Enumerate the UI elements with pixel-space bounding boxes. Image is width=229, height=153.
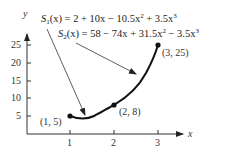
point-label-2-8: (2, 8) (119, 106, 141, 118)
point-1-5 (67, 113, 72, 118)
y-axis-label: y (22, 8, 28, 19)
point-label-1-5: (1, 5) (40, 116, 62, 128)
y-tick-15: 15 (11, 75, 21, 86)
s1-pointer-arrow (47, 29, 85, 115)
point-label-3-25: (3, 25) (162, 47, 189, 59)
spline-s1-curve (70, 105, 114, 119)
s1-exp3: 3 (173, 12, 177, 20)
x-tick-2: 2 (111, 137, 116, 148)
s2-terms-2: − 3.5x (166, 28, 196, 39)
s1-terms-2: + 3.5x (144, 13, 174, 24)
x-tick-1: 1 (67, 137, 72, 148)
s2-exp3: 3 (195, 27, 199, 35)
y-tick-10: 10 (11, 92, 21, 103)
s2-pointer-arrow (76, 43, 136, 74)
x-axis-label: x (187, 128, 193, 139)
y-tick-20: 20 (11, 57, 21, 68)
y-tick-25: 25 (11, 39, 21, 50)
s1-equation: S1(x) = 2 + 10x − 10.5x2 + 3.5x3 (41, 12, 177, 26)
spline-chart: y x 5 10 15 20 25 1 2 3 (1, 5) (2, 8) (3… (0, 0, 229, 153)
x-ticks (70, 130, 158, 134)
spline-s2-curve (114, 45, 158, 105)
y-ticks (27, 45, 31, 116)
point-2-8 (111, 102, 116, 107)
x-tick-3: 3 (155, 137, 160, 148)
point-3-25 (155, 42, 160, 47)
s2-equation: S2(x) = 58 − 74x + 31.5x2 − 3.5x3 (58, 27, 199, 41)
y-tick-5: 5 (16, 110, 21, 121)
s1-terms: (x) = 2 + 10x − 10.5x (50, 13, 141, 25)
s2-terms: (x) = 58 − 74x + 31.5x (67, 28, 163, 40)
